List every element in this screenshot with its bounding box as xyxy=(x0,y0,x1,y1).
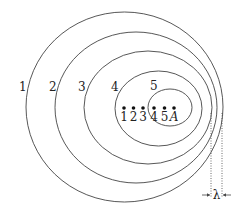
wavefront-ring-2 xyxy=(55,32,217,183)
source-label: 5 xyxy=(161,110,169,124)
doppler-diagram: 12345 12345A λ xyxy=(0,0,248,215)
wavelength-indicator: λ xyxy=(202,113,231,202)
source-label: 4 xyxy=(150,110,158,124)
wavefront-ring-4 xyxy=(115,71,202,146)
wavefront-label: 1 xyxy=(19,80,27,94)
source-label: 2 xyxy=(130,110,138,124)
source-label: A xyxy=(169,110,179,124)
wavefront-label: 3 xyxy=(78,80,86,94)
wavelength-label: λ xyxy=(213,188,221,202)
wavefront-label: 4 xyxy=(111,80,119,94)
source-label: 1 xyxy=(120,110,128,124)
wavefront-label: 5 xyxy=(150,79,158,93)
source-label: 3 xyxy=(139,110,147,124)
arrowhead-icon xyxy=(223,193,226,197)
source-positions: 12345A xyxy=(120,106,178,124)
wavefront-label: 2 xyxy=(49,80,57,94)
arrowhead-icon xyxy=(207,193,210,197)
